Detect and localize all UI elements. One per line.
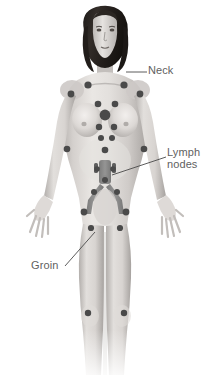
lymph-node-dot-iliac-left: [91, 189, 97, 195]
label-neck: Neck: [148, 65, 173, 77]
lymph-node-dot-inguinal-left: [81, 209, 88, 216]
pelvic-region-shading: [93, 189, 117, 225]
knee-right: [113, 305, 131, 327]
breast-left: [72, 103, 102, 137]
lymph-node-dot-femoral-right: [117, 225, 123, 231]
label-groin: Groin: [31, 260, 58, 272]
nipple-left: [81, 122, 86, 126]
lymph-node-dot-popliteal-right: [121, 310, 127, 316]
lymph-node-dot-supraclavicular-right: [112, 101, 119, 108]
lymph-node-dot-mediastinal-central: [100, 110, 111, 121]
lymph-node-dot-epigastric-right: [109, 135, 115, 141]
breast-right: [108, 103, 138, 137]
lymph-node-dot-iliac-right: [114, 189, 120, 195]
lymph-node-dot-internal-mammary-right: [111, 124, 117, 130]
eye-left: [97, 29, 102, 32]
eye-right: [110, 29, 115, 32]
lymph-node-dot-popliteal-left: [85, 310, 91, 316]
bottom-fade-mask: [60, 330, 160, 383]
lymph-node-dot-brachial-left: [64, 146, 71, 153]
lymph-node-dot-upper-abdominal: [102, 147, 109, 154]
nipple-right: [123, 122, 128, 126]
label-lymph-nodes-line1: Lymph: [167, 146, 200, 158]
lymph-node-dot-femoral-left: [88, 225, 94, 231]
lymph-node-dot-supraclavicular-left: [95, 101, 102, 108]
lymph-node-dot-para-aortic-upper-right: [110, 166, 116, 172]
lymph-node-dot-inguinal-right: [123, 209, 130, 216]
head: [83, 6, 129, 72]
lymph-node-diagram: Neck Lymphnodes Groin: [0, 0, 218, 383]
knee-left: [81, 305, 99, 327]
label-lymph-nodes-line2: nodes: [167, 158, 197, 170]
label-lymph-nodes: Lymphnodes: [167, 147, 200, 170]
lymph-node-dot-internal-mammary-left: [96, 124, 102, 130]
lymph-node-dot-cervical-right: [120, 81, 127, 88]
lymph-node-dot-para-aortic-upper-left: [94, 166, 100, 172]
body-figure: [27, 6, 183, 383]
hand-left: [27, 195, 53, 237]
lymph-node-dot-axillary-right: [137, 91, 144, 98]
lymph-node-dot-epigastric-left: [98, 135, 104, 141]
body-illustration: [0, 0, 218, 383]
lymph-node-dot-para-aortic-mid: [102, 177, 108, 183]
lymph-node-dot-cervical-left: [84, 81, 91, 88]
hand-right: [157, 195, 183, 237]
lymph-node-dot-brachial-right: [141, 146, 148, 153]
lymph-node-dot-axillary-left: [68, 91, 75, 98]
